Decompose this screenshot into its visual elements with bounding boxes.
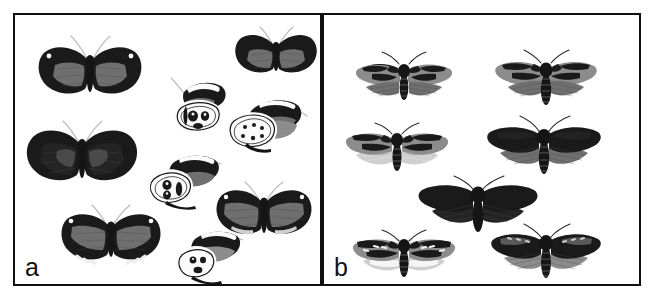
moth-top-right [490, 47, 602, 113]
butterfly-lateral-upper [167, 72, 229, 138]
butterfly-lateral-right [223, 93, 309, 155]
moth-mid-left [342, 119, 452, 179]
butterfly-dorsal-top-right [231, 23, 321, 85]
moth-bottom-right [488, 221, 606, 285]
butterfly-lateral-bottom [173, 227, 245, 285]
panel-b-label: b [334, 255, 348, 280]
moth-bottom-left [348, 227, 460, 285]
figure-plate: a [0, 0, 654, 305]
moth-top-left [350, 49, 458, 111]
panel-a-label: a [25, 255, 39, 280]
panel-b-moths: b [322, 13, 641, 286]
butterfly-dorsal-mid-left [21, 115, 143, 195]
butterfly-dorsal-bottom-left [55, 201, 167, 275]
panel-a-butterflies: a [13, 13, 322, 286]
butterfly-dorsal-top-left [31, 31, 149, 109]
